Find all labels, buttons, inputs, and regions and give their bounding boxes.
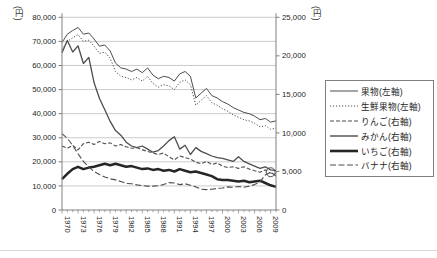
left-axis-tick-label: 20,000 <box>32 157 57 166</box>
x-axis-tick-label: 1985 <box>143 216 152 233</box>
legend-item-ichigo: いちご(右軸) <box>326 143 433 158</box>
right-axis-tick-label: 20,000 <box>282 51 307 60</box>
left-axis-tick-label: 60,000 <box>32 61 57 70</box>
legend-label: みかん(右軸) <box>361 130 412 142</box>
legend-label: 生鮮果物(左軸) <box>361 100 421 112</box>
legend-label: いちご(右軸) <box>361 145 412 157</box>
x-axis-tick-label: 1970 <box>63 216 72 233</box>
x-axis-tick-label: 1994 <box>191 216 200 233</box>
x-axis-tick-label: 1988 <box>159 216 168 233</box>
x-axis-tick-label: 2006 <box>255 216 264 233</box>
x-axis-tick-label: 1997 <box>207 216 216 233</box>
left-axis-tick-label: 0 <box>52 206 57 215</box>
legend-line-sample-long-dashed <box>329 160 359 170</box>
x-axis-tick-label: 2000 <box>223 216 232 233</box>
page-divider <box>0 250 437 251</box>
left-axis-tick-label: 10,000 <box>32 182 57 191</box>
right-axis-tick-label: 10,000 <box>282 129 307 138</box>
legend-item-kudamono: 果物(左軸) <box>326 84 433 99</box>
series-line-3 <box>62 40 276 170</box>
legend-line-sample-dashed <box>329 116 359 126</box>
legend-line-sample-solid-medium <box>329 131 359 141</box>
left-axis-tick-label: 70,000 <box>32 37 57 46</box>
x-axis-tick-label: 1991 <box>175 216 184 233</box>
legend-line-sample-dotted <box>329 101 359 111</box>
x-axis-tick-label: 1976 <box>95 216 104 233</box>
left-axis-tick-label: 50,000 <box>32 85 57 94</box>
legend-label: 果物(左軸) <box>361 85 403 97</box>
legend-item-mikan: みかん(右軸) <box>326 128 433 143</box>
annotation-circle <box>266 168 275 177</box>
x-axis-tick-label: 1973 <box>79 216 88 233</box>
left-axis-tick-label: 40,000 <box>32 109 57 118</box>
right-axis-unit-label: (円) <box>311 6 320 21</box>
legend-label: りんご(右軸) <box>361 115 412 127</box>
chart-legend: 果物(左軸) 生鮮果物(左軸) りんご(右軸) みかん(右軸) いちご(右軸) <box>325 80 434 177</box>
legend-label: バナナ(右軸) <box>361 159 412 171</box>
x-axis-tick-label: 1979 <box>111 216 120 233</box>
x-axis-tick-label: 2003 <box>239 216 248 233</box>
chart-panel: 010,00020,00030,00040,00050,00060,00070,… <box>0 0 437 258</box>
right-axis-tick-label: 15,000 <box>282 90 307 99</box>
right-axis-tick-label: 5,000 <box>282 167 302 176</box>
legend-item-banana: バナナ(右軸) <box>326 158 433 173</box>
legend-line-sample-solid-thick <box>329 146 359 156</box>
left-axis-tick-label: 30,000 <box>32 133 57 142</box>
legend-line-sample-solid-thin <box>329 86 359 96</box>
x-axis-tick-label: 1982 <box>127 216 136 233</box>
left-axis-tick-label: 80,000 <box>32 13 57 22</box>
legend-item-ringo: りんご(右軸) <box>326 114 433 129</box>
right-axis-tick-label: 0 <box>282 206 287 215</box>
legend-item-seisen-kudamono: 生鮮果物(左軸) <box>326 99 433 114</box>
left-axis-unit-label: (円) <box>13 6 22 21</box>
right-axis-tick-label: 25,000 <box>282 13 307 22</box>
x-axis-tick-label: 2009 <box>271 216 280 233</box>
